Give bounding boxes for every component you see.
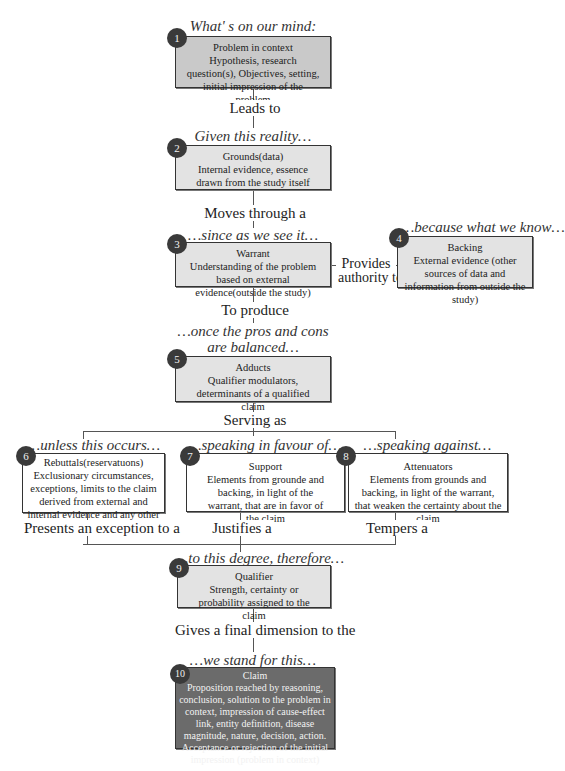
node-title: Qualifier — [178, 570, 330, 583]
edge-label-leads-to: Leads to — [203, 100, 307, 116]
node-title: Grounds(data) — [176, 150, 330, 163]
caption-qualifier: …to this degree, therefore… — [175, 550, 331, 566]
node-body: Hypothesis, research question(s), Object… — [176, 54, 330, 106]
node-grounds: Grounds(data) Internal evidence, essence… — [175, 145, 331, 190]
edge-label-serving-as: Serving as — [203, 412, 307, 428]
node-backing: Backing External evidence (other sources… — [397, 236, 533, 288]
badge-5-icon: 5 — [167, 349, 187, 369]
node-title: Adducts — [176, 361, 330, 374]
edge-label-final-dimension: Gives a final dimension to the — [173, 622, 337, 638]
edge-label-moves-through: Moves through a — [193, 205, 317, 221]
caption-problem: What' s on our mind: — [175, 18, 331, 34]
edge-label-presents-exception: Presents an exception to a — [22, 520, 166, 536]
node-title: Problem in context — [176, 41, 330, 54]
edge-label-tempers: Tempers a — [362, 520, 432, 536]
node-qualifier: Qualifier Strength, certainty or probabi… — [177, 565, 331, 608]
node-body: Qualifier modulators, determinants of a … — [176, 374, 330, 413]
node-title: Rebuttals(reservatuons) — [23, 456, 164, 469]
edge-label-justifies: Justifies a — [210, 520, 274, 536]
node-warrant: Warrant Understanding of the problem bas… — [175, 242, 331, 287]
node-claim: Claim Proposition reached by reasoning, … — [175, 667, 335, 749]
node-support: Support Elements from grounde and backin… — [186, 453, 345, 512]
node-body: Elements from grounde and backing, in li… — [187, 473, 344, 525]
badge-2-icon: 2 — [167, 138, 187, 158]
badge-4-icon: 4 — [389, 228, 409, 248]
node-title: Attenuators — [349, 460, 507, 473]
badge-1-icon: 1 — [167, 28, 187, 48]
node-body: Proposition reached by reasoning, conclu… — [176, 682, 334, 766]
badge-9-icon: 9 — [169, 558, 189, 578]
split-horizontal — [83, 431, 396, 432]
node-title: Support — [187, 460, 344, 473]
caption-grounds: Given this reality… — [175, 128, 331, 144]
caption-adducts: …once the pros and cons are balanced… — [175, 323, 331, 355]
node-problem-in-context: Problem in context Hypothesis, research … — [175, 36, 331, 88]
node-body: Elements from grounds and backing, in li… — [349, 473, 507, 525]
badge-6-icon: 6 — [16, 446, 36, 466]
caption-backing: …because what we know… — [397, 219, 551, 235]
caption-rebuttals: …unless this occurs… — [22, 437, 165, 453]
caption-attenuators: …speaking against… — [347, 437, 508, 453]
badge-3-icon: 3 — [167, 234, 187, 254]
node-title: Backing — [398, 241, 532, 254]
node-adducts: Adducts Qualifier modulators, determinan… — [175, 356, 331, 402]
caption-claim: …we stand for this… — [175, 652, 331, 668]
node-title: Warrant — [176, 247, 330, 260]
node-body: Internal evidence, essence drawn from th… — [176, 163, 330, 189]
node-body: External evidence (other sources of data… — [398, 254, 532, 306]
edge-label-provides: Provides — [336, 257, 396, 271]
badge-7-icon: 7 — [180, 446, 200, 466]
node-body: Strength, certainty or probability assig… — [178, 583, 330, 622]
edge-label-authority-to: authority to — [336, 271, 396, 285]
badge-10-icon: 10 — [170, 664, 190, 684]
node-body: Understanding of the problem based on ex… — [176, 260, 330, 299]
badge-8-icon: 8 — [336, 446, 356, 466]
node-title: Claim — [176, 670, 334, 682]
caption-warrant: …since as we see it… — [175, 227, 331, 243]
edge-label-to-produce: To produce — [203, 302, 307, 318]
caption-support: …speaking in favour of… — [185, 437, 345, 453]
node-attenuators: Attenuators Elements from grounds and ba… — [348, 453, 508, 512]
node-rebuttals: Rebuttals(reservatuons) Exclusionary cir… — [22, 453, 165, 513]
